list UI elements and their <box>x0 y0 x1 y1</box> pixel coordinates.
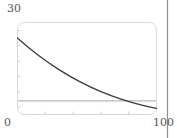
y-axis-min-label: 0 <box>4 117 11 128</box>
decay-curve <box>18 38 157 108</box>
chart-figure: 30 0 100 <box>0 0 177 138</box>
plot-canvas <box>0 0 177 138</box>
y-axis-max-label: 30 <box>7 3 21 14</box>
x-axis-max-label: 100 <box>153 117 174 128</box>
